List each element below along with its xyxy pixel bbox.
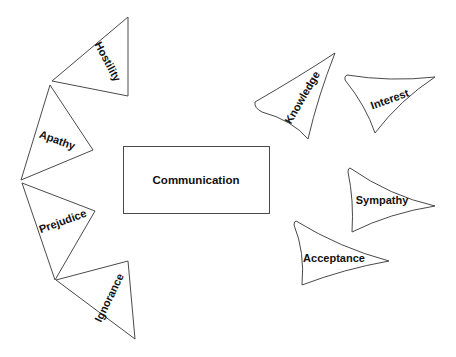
enabler-interest: Interest (345, 75, 435, 133)
center-label: Communication (153, 174, 240, 186)
enabler-sympathy: Sympathy (348, 168, 435, 232)
center-box: Communication (124, 147, 270, 214)
enabler-label: Sympathy (356, 194, 409, 206)
triangle-shape (52, 17, 128, 96)
triangle-shape (56, 261, 135, 339)
enabler-label: Acceptance (303, 252, 365, 264)
barrier-apathy: Apathy (21, 85, 93, 180)
barrier-ignorance: Ignorance (56, 261, 135, 339)
barrier-hostility: Hostility (52, 17, 128, 96)
enabler-acceptance: Acceptance (294, 221, 389, 285)
barrier-prejudice: Prejudice (22, 183, 95, 280)
communication-diagram: Hostility Apathy Prejudice Ignorance Com… (0, 0, 456, 357)
enabler-knowledge: Knowledge (255, 53, 335, 139)
triangle-shape (22, 183, 95, 280)
